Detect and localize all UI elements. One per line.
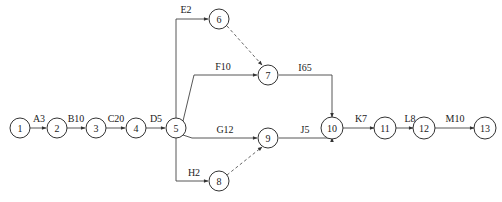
activity-arrow-j bbox=[279, 138, 332, 139]
dummy-arrow-8-9 bbox=[227, 147, 262, 175]
nodes: 1 2 3 4 5 6 7 8 9 10 11 12 13 bbox=[10, 9, 496, 191]
activity-arrow-f bbox=[183, 75, 257, 121]
activity-label: C20 bbox=[108, 113, 125, 124]
event-node: 12 bbox=[413, 117, 435, 139]
activity-label: G12 bbox=[216, 124, 233, 135]
node-label: 2 bbox=[55, 123, 60, 134]
event-node: 9 bbox=[258, 128, 278, 148]
activity-label: D5 bbox=[150, 113, 162, 124]
activity-label: B10 bbox=[68, 113, 85, 124]
node-label: 4 bbox=[134, 123, 139, 134]
node-label: 3 bbox=[94, 123, 99, 134]
event-node: 7 bbox=[258, 65, 278, 85]
activity-label: L8 bbox=[404, 113, 415, 124]
node-label: 6 bbox=[217, 14, 222, 25]
node-label: 9 bbox=[266, 133, 271, 144]
event-node: 4 bbox=[126, 118, 146, 138]
activity-label: A3 bbox=[33, 113, 45, 124]
event-node: 5 bbox=[166, 118, 186, 138]
activity-label: I65 bbox=[298, 62, 311, 73]
activity-arrow-i bbox=[279, 75, 332, 117]
activity-label: H2 bbox=[188, 167, 200, 178]
node-label: 11 bbox=[380, 123, 390, 134]
event-node: 3 bbox=[86, 118, 106, 138]
node-label: 1 bbox=[18, 123, 23, 134]
node-label: 5 bbox=[174, 123, 179, 134]
activity-label: E2 bbox=[180, 4, 191, 15]
node-label: 13 bbox=[480, 123, 490, 134]
activity-labels: A3 B10 C20 D5 E2 F10 G12 H2 I65 J5 K7 L8… bbox=[33, 4, 465, 178]
event-node: 11 bbox=[374, 117, 396, 139]
node-label: 10 bbox=[327, 123, 337, 134]
activity-label: M10 bbox=[446, 113, 465, 124]
node-label: 12 bbox=[419, 123, 429, 134]
node-label: 7 bbox=[266, 70, 271, 81]
event-node: 6 bbox=[209, 9, 229, 29]
edges bbox=[30, 19, 474, 181]
network-diagram: A3 B10 C20 D5 E2 F10 G12 H2 I65 J5 K7 L8… bbox=[0, 0, 502, 202]
event-node: 10 bbox=[321, 117, 343, 139]
activity-arrow-e bbox=[176, 19, 208, 118]
event-node: 2 bbox=[47, 118, 67, 138]
activity-label: K7 bbox=[355, 113, 367, 124]
event-node: 8 bbox=[209, 171, 229, 191]
dummy-arrow-6-7 bbox=[227, 26, 262, 65]
node-label: 8 bbox=[217, 176, 222, 187]
activity-label: J5 bbox=[301, 124, 310, 135]
event-node: 1 bbox=[10, 118, 30, 138]
activity-label: F10 bbox=[215, 61, 231, 72]
activity-arrow-g bbox=[183, 135, 257, 138]
event-node: 13 bbox=[474, 117, 496, 139]
